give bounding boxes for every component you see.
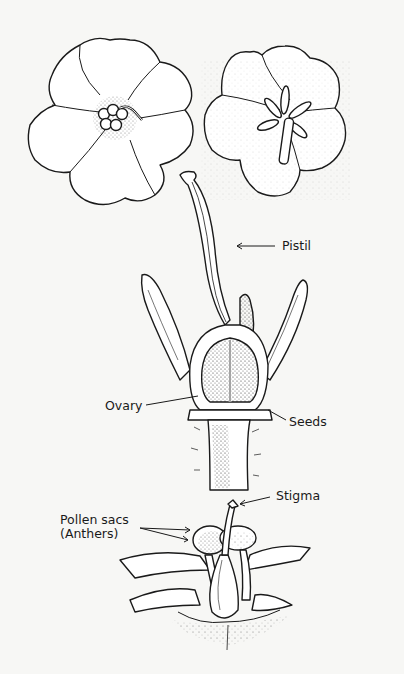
flower-with-stamens (200, 46, 350, 200)
pollen-sacs-label: Pollen sacs (60, 513, 129, 527)
ovary-label: Ovary (105, 399, 142, 413)
open-flower-front (28, 38, 193, 204)
flower-anatomy-illustration (0, 0, 404, 674)
seeds-label: Seeds (289, 415, 327, 429)
pistil-cross-section (142, 171, 308, 490)
stigma-label: Stigma (276, 489, 320, 503)
flower-reproductive-parts (120, 500, 310, 650)
pistil-label: Pistil (282, 239, 311, 253)
anthers-label: (Anthers) (60, 527, 118, 541)
ovary-leader (146, 396, 198, 405)
